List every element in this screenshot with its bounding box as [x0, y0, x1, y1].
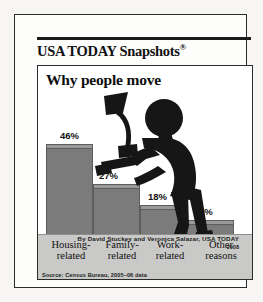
bar-front-face-0 — [46, 148, 93, 237]
bar-value-label-0: 46% — [60, 130, 79, 141]
bar-front-face-2 — [140, 209, 187, 237]
figure-arm-lower — [134, 166, 166, 186]
masthead-brand-text: USA TODAY Snapshots — [37, 43, 180, 59]
cat-line-0-1: related — [42, 250, 100, 261]
lamp-arm-icon — [101, 156, 136, 171]
credit-year: 2008 — [23, 244, 239, 250]
credit-byline: By David Stuckey and Veronica Salazar, U… — [23, 235, 239, 242]
scan-background: USA TODAY Snapshots® Why people move 46%… — [0, 0, 263, 302]
cat-line-1-1: related — [94, 250, 150, 261]
bar-housing-related: 46% — [46, 144, 93, 237]
bar-value-label-2: 18% — [148, 191, 167, 202]
source-note: Source: Census Bureau, 2005–06 data — [42, 272, 147, 278]
figure-neck — [158, 132, 174, 146]
lamp-base-icon — [118, 144, 138, 158]
masthead-title: USA TODAY Snapshots® — [37, 42, 186, 60]
bar-work-related: 18% — [140, 205, 187, 237]
masthead: USA TODAY Snapshots® — [37, 37, 254, 63]
cat-line-3-1: reasons — [192, 250, 250, 261]
registered-trademark-icon: ® — [180, 42, 186, 52]
figure-head — [145, 99, 183, 137]
snapshot-outer-frame: USA TODAY Snapshots® Why people move 46%… — [14, 14, 247, 288]
masthead-rule — [37, 37, 251, 40]
lamp-neck-icon — [116, 110, 131, 148]
bar-value-label-1: 27% — [99, 170, 118, 181]
bar-front-face-1 — [93, 188, 140, 237]
figure-arm-front — [130, 146, 160, 166]
bar-family-related: 27% — [93, 184, 140, 237]
cat-line-2-1: related — [143, 250, 197, 261]
lamp-shade-icon — [104, 92, 128, 115]
credit-block: By David Stuckey and Veronica Salazar, U… — [23, 235, 239, 250]
bar-value-label-3: 8% — [199, 206, 213, 217]
